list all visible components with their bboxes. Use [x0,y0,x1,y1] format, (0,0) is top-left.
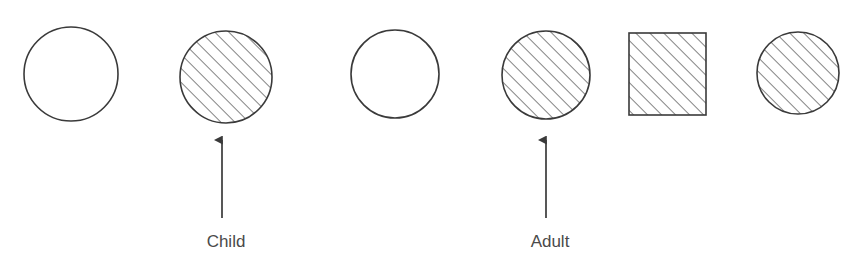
square-hatched [629,33,706,115]
label-child: Child [207,232,246,251]
circle-hatched-3 [757,32,839,114]
circle-open-1 [24,27,118,121]
diagram-root: Child Adult [0,0,858,260]
label-adult: Adult [531,232,570,251]
circle-hatched-adult [502,31,590,119]
circle-hatched-child [180,31,272,123]
shapes-diagram: Child Adult [0,0,858,260]
circle-open-2 [351,30,439,118]
